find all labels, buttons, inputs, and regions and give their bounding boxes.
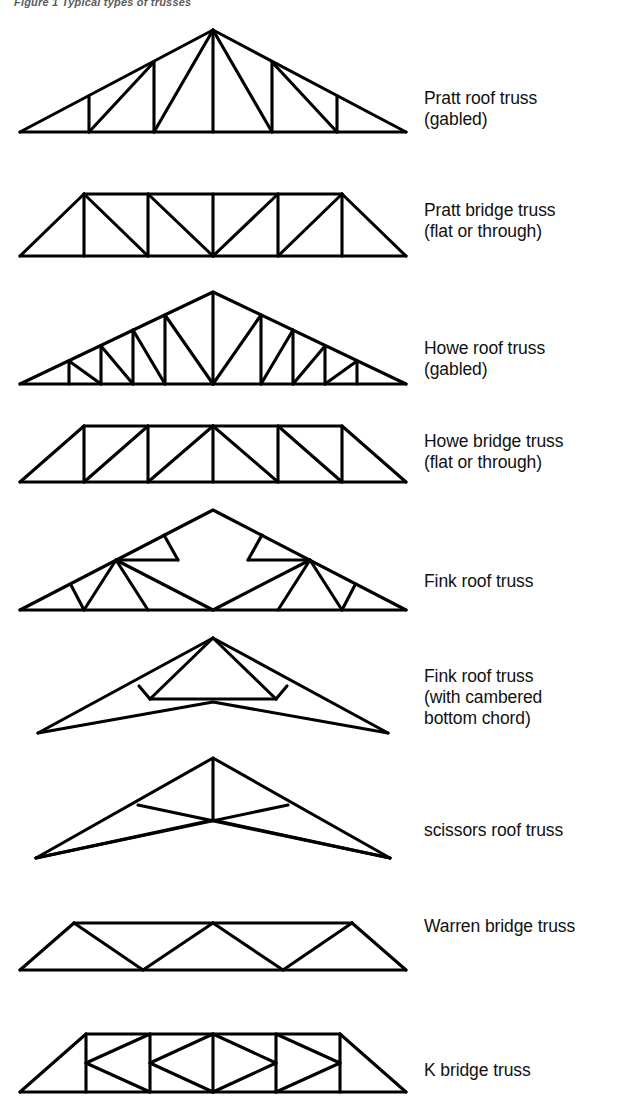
- diagonal-3: [213, 426, 278, 482]
- cambered-bottom-chord: [36, 820, 390, 858]
- top-chord: [38, 638, 388, 733]
- end-strut-left: [71, 585, 84, 610]
- truss-label-pratt-roof-truss: Pratt roof truss (gabled): [424, 88, 537, 130]
- truss-diagram-fink-roof-truss: [8, 500, 418, 620]
- diagonal-4: [165, 315, 213, 384]
- truss-diagram-fink-roof-truss-cambered: [8, 630, 418, 740]
- diagonal-3: [213, 923, 283, 970]
- diagonal-4: [283, 923, 352, 970]
- end-post-right: [340, 1034, 406, 1092]
- truss-diagram-howe-roof-truss: [8, 288, 418, 393]
- truss-label-scissors-roof-truss: scissors roof truss: [424, 820, 563, 841]
- k-brace-3-upper: [213, 1034, 276, 1063]
- diagonal-4: [278, 194, 342, 256]
- end-post-left: [20, 194, 84, 256]
- diagonal-2: [148, 194, 213, 256]
- truss-label-pratt-bridge-truss: Pratt bridge truss (flat or through): [424, 200, 555, 242]
- truss-diagram-pratt-roof-truss: [8, 20, 418, 140]
- k-brace-2-lower: [150, 1063, 213, 1092]
- truss-diagram-k-bridge-truss: [8, 1012, 418, 1104]
- end-post-right: [342, 194, 406, 256]
- truss-label-fink-roof-truss: Fink roof truss: [424, 571, 533, 592]
- diagonal-2: [148, 426, 213, 482]
- diagonal-3: [213, 194, 278, 256]
- diagonal-1: [84, 194, 148, 256]
- diagonal-1: [69, 361, 101, 384]
- end-post-left: [20, 426, 84, 482]
- truss-diagram-pratt-bridge-truss: [8, 184, 418, 264]
- end-post-right: [352, 923, 406, 970]
- k-brace-3-lower: [213, 1063, 276, 1092]
- truss-label-howe-roof-truss: Howe roof truss (gabled): [424, 338, 545, 380]
- cambered-bottom-chord: [38, 702, 388, 733]
- diagonal-1: [84, 426, 148, 482]
- scissor-member-right: [138, 805, 390, 858]
- diagonal-1: [89, 62, 154, 132]
- k-brace-4-upper: [276, 1034, 340, 1063]
- end-post-left: [20, 923, 74, 970]
- k-brace-4-lower: [276, 1063, 340, 1092]
- truss-label-howe-bridge-truss: Howe bridge truss (flat or through): [424, 431, 563, 473]
- end-strut-right: [342, 585, 355, 610]
- k-brace-1-lower: [86, 1063, 150, 1092]
- diagonal-2: [143, 923, 213, 970]
- scissor-member-left: [36, 805, 288, 858]
- diagonal-6: [261, 330, 293, 384]
- diagonal-2: [101, 346, 133, 384]
- diagonal-3: [133, 330, 165, 384]
- sub-strut-left: [164, 535, 178, 560]
- end-post-left: [20, 1034, 86, 1092]
- k-brace-1-upper: [86, 1034, 150, 1063]
- truss-diagram-scissors-roof-truss: [8, 750, 418, 865]
- diagonal-1: [74, 923, 143, 970]
- truss-label-warren-bridge-truss: Warren bridge truss: [424, 916, 575, 937]
- sub-strut-right: [248, 535, 262, 560]
- sub-strut-right: [276, 686, 287, 699]
- k-brace-2-upper: [150, 1034, 213, 1063]
- truss-diagram-howe-bridge-truss: [8, 418, 418, 490]
- truss-label-fink-roof-truss-cambered: Fink roof truss (with cambered bottom ch…: [424, 666, 542, 729]
- end-post-right: [342, 426, 406, 482]
- sub-strut-left: [139, 686, 150, 699]
- truss-diagram-warren-bridge-truss: [8, 890, 418, 980]
- truss-label-k-bridge-truss: K bridge truss: [424, 1060, 531, 1081]
- diagonal-7: [293, 346, 325, 384]
- diagonal-5: [213, 315, 261, 384]
- diagonal-4: [272, 62, 337, 132]
- diagonal-4: [278, 426, 342, 482]
- figure-caption: Figure 1 Typical types of trusses: [14, 0, 191, 8]
- diagonal-8: [325, 361, 357, 384]
